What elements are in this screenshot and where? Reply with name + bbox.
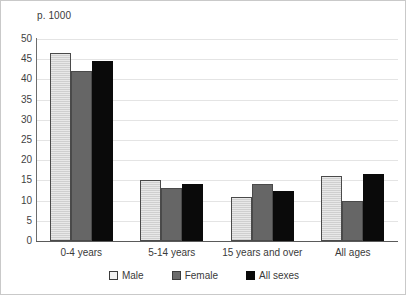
y-axis-tick-label: 30 bbox=[1, 115, 32, 125]
bar bbox=[92, 61, 113, 241]
legend-item-label: All sexes bbox=[259, 270, 299, 281]
bar bbox=[273, 191, 294, 242]
x-axis-category-label: 5-14 years bbox=[127, 246, 218, 259]
legend-item-label: Female bbox=[185, 270, 218, 281]
bar-group bbox=[217, 39, 308, 241]
bar bbox=[342, 201, 363, 241]
x-axis-category-label: All ages bbox=[308, 246, 399, 259]
bar bbox=[252, 184, 273, 241]
bar-group bbox=[308, 39, 399, 241]
y-axis-line bbox=[36, 38, 37, 242]
y-axis-tick-label: 45 bbox=[1, 54, 32, 64]
x-axis-category-label: 0-4 years bbox=[36, 246, 127, 259]
bar-chart: p. 1000 50454035302520151050 0-4 years5-… bbox=[0, 0, 406, 295]
bar bbox=[363, 174, 384, 241]
x-axis-category-label: 15 years and over bbox=[217, 246, 308, 259]
legend-item[interactable]: Female bbox=[172, 270, 218, 281]
bar bbox=[231, 197, 252, 241]
y-axis-tick-labels: 50454035302520151050 bbox=[1, 39, 32, 241]
y-axis-tick-label: 35 bbox=[1, 95, 32, 105]
legend-item-label: Male bbox=[122, 270, 144, 281]
male-swatch-icon bbox=[109, 271, 118, 280]
bar bbox=[161, 188, 182, 241]
y-axis-tick-label: 0 bbox=[1, 236, 32, 246]
legend-item[interactable]: Male bbox=[109, 270, 144, 281]
bar bbox=[140, 180, 161, 241]
chart-title: p. 1000 bbox=[37, 10, 71, 21]
y-axis-tick-label: 20 bbox=[1, 155, 32, 165]
bar bbox=[321, 176, 342, 241]
y-axis-tick-label: 50 bbox=[1, 34, 32, 44]
legend-item[interactable]: All sexes bbox=[246, 270, 299, 281]
bar bbox=[71, 71, 92, 241]
y-axis-tick-label: 40 bbox=[1, 74, 32, 84]
y-axis-tick-label: 5 bbox=[1, 216, 32, 226]
y-axis-tick-label: 10 bbox=[1, 196, 32, 206]
female-swatch-icon bbox=[172, 271, 181, 280]
y-axis-tick-label: 25 bbox=[1, 135, 32, 145]
plot-area bbox=[36, 39, 398, 241]
bar bbox=[50, 53, 71, 241]
chart-legend: MaleFemaleAll sexes bbox=[1, 270, 406, 281]
x-axis-line bbox=[36, 241, 398, 242]
bar bbox=[182, 184, 203, 241]
all-sexes-swatch-icon bbox=[246, 271, 255, 280]
y-axis-tick-label: 15 bbox=[1, 175, 32, 185]
bar-group bbox=[127, 39, 218, 241]
bar-group bbox=[36, 39, 127, 241]
